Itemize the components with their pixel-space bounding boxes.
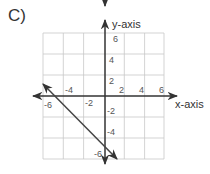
x-tick-neg6: -6 bbox=[44, 100, 52, 110]
y-tick-neg4: -4 bbox=[107, 127, 115, 137]
y-tick-neg2: -2 bbox=[107, 106, 115, 116]
y-tick-4: 4 bbox=[109, 55, 114, 65]
x-tick-neg4: -4 bbox=[65, 85, 73, 95]
x-tick-6: 6 bbox=[159, 85, 164, 95]
y-tick-2: 2 bbox=[109, 76, 114, 86]
y-axis-label: y-axis bbox=[112, 18, 141, 30]
x-tick-4: 4 bbox=[139, 85, 144, 95]
coordinate-plane: 6 4 2 -2 -4 -6 -6 -4 -2 2 4 6 y-axis x-a… bbox=[0, 0, 210, 174]
x-axis-label: x-axis bbox=[175, 98, 204, 110]
y-tick-6: 6 bbox=[113, 34, 118, 44]
y-tick-neg6: -6 bbox=[94, 149, 102, 159]
x-tick-2: 2 bbox=[119, 85, 124, 95]
x-tick-neg2: -2 bbox=[85, 98, 93, 108]
